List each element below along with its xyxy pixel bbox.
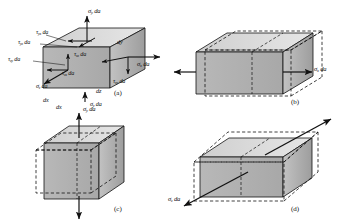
label-sigma-x-b: σx da	[314, 66, 326, 73]
caption-panel-a: (a)	[114, 89, 122, 97]
label-dx-a: dx	[43, 97, 48, 103]
label-tau-xz: τxz da	[74, 51, 86, 58]
caption-panel-b: (b)	[291, 98, 299, 106]
caption-panel-d: (d)	[291, 205, 299, 213]
panel-c-element	[44, 126, 124, 199]
label-dz-a: dz	[96, 88, 101, 94]
label-sigma-y-top: σy da	[88, 8, 100, 15]
label-tau-zy: τzy da	[8, 56, 20, 63]
caption-panel-c: (c)	[114, 205, 122, 213]
label-tau-xy: τxy da	[113, 78, 125, 85]
label-dy-a: dy	[117, 39, 122, 45]
label-tau-yx: τyx da	[36, 29, 48, 36]
label-sigma-z: σz da	[36, 83, 47, 90]
label-tau-yz: τyz da	[18, 39, 30, 46]
label-sigma-z-d: σz da	[168, 196, 180, 203]
panel-b-front-face	[196, 52, 283, 94]
label-sigma-y-c: σy da	[83, 106, 95, 113]
label-tau-zx: τzx da	[62, 70, 74, 77]
panel-b-element	[196, 33, 313, 94]
label-dx-c: dx	[56, 104, 61, 110]
label-sigma-x-a: σx da	[137, 61, 149, 68]
panel-a-element	[43, 28, 145, 88]
stress-element-figure	[0, 0, 341, 224]
